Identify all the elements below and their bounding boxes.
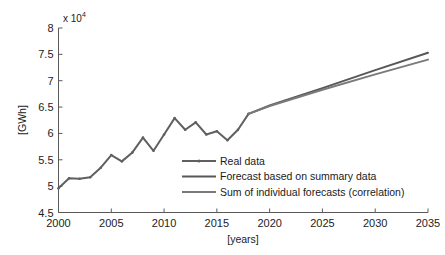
data-point-marker [99, 166, 102, 169]
legend-label-3: Sum of individual forecasts (correlation… [220, 186, 404, 198]
data-point-marker [205, 133, 208, 136]
x-axis-title: [years] [227, 233, 259, 245]
legend: Real dataForecast based on summary dataS… [182, 155, 404, 198]
data-point-marker [163, 133, 166, 136]
data-point-marker [78, 177, 81, 180]
data-point-marker [57, 187, 60, 190]
y-axis-exponent-label: x 10 [63, 13, 82, 24]
data-point-marker [173, 117, 176, 120]
x-tick-label: 2030 [363, 217, 387, 229]
chart-canvas: 4.555.566.577.58 20002005201020152020202… [0, 0, 445, 255]
y-tick-label: 5 [47, 180, 53, 192]
legend-marker-1 [197, 159, 200, 162]
data-point-marker [68, 177, 71, 180]
legend-label-1: Real data [220, 155, 265, 167]
x-tick-label: 2000 [46, 217, 70, 229]
series-line-sum-of-individual-forecasts-correlation [249, 60, 428, 114]
data-point-marker [89, 176, 92, 179]
data-point-marker [226, 139, 229, 142]
y-tick-label: 6.5 [38, 101, 53, 113]
data-series [57, 53, 428, 190]
x-tick-label: 2010 [152, 217, 176, 229]
legend-label-2: Forecast based on summary data [220, 170, 377, 182]
y-tick-label: 7 [47, 75, 53, 87]
data-point-marker [237, 128, 240, 131]
y-axis-exponent-power: 4 [82, 11, 86, 18]
data-point-marker [131, 151, 134, 154]
data-point-marker [110, 154, 113, 157]
y-tick-label: 8 [47, 22, 53, 34]
x-tick-label: 2005 [99, 217, 123, 229]
data-point-marker [142, 136, 145, 139]
x-tick-label: 2025 [310, 217, 334, 229]
y-axis-title: [GWh] [16, 105, 28, 135]
data-point-marker [121, 160, 124, 163]
x-axis-ticks: 20002005201020152020202520302035 [46, 209, 440, 229]
data-point-marker [194, 121, 197, 124]
data-point-marker [216, 130, 219, 133]
data-point-marker [152, 150, 155, 153]
y-tick-label: 6 [47, 127, 53, 139]
x-tick-label: 2020 [257, 217, 281, 229]
y-tick-label: 5.5 [38, 154, 53, 166]
data-point-marker [184, 128, 187, 131]
y-tick-label: 7.5 [38, 48, 53, 60]
chart-figure: 4.555.566.577.58 20002005201020152020202… [0, 0, 445, 255]
x-tick-label: 2035 [416, 217, 440, 229]
x-tick-label: 2015 [205, 217, 229, 229]
